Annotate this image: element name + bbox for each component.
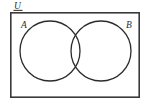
venn-diagram-canvas: U A B — [0, 0, 147, 106]
set-b-label: B — [126, 20, 132, 30]
set-a-label: A — [20, 20, 27, 30]
universal-set-rectangle — [11, 13, 139, 97]
venn-diagram-figure: U A B — [0, 0, 147, 106]
universal-set-label: U — [14, 1, 22, 11]
